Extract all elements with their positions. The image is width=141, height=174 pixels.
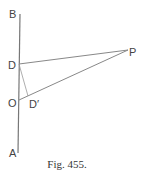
label-p: P (129, 46, 136, 58)
line-ab (18, 14, 20, 153)
diagram: B D O A P D′ Fig. 455. (0, 0, 141, 174)
arc-dd-prime (19, 64, 28, 96)
label-d: D (8, 59, 16, 71)
label-d-prime: D′ (29, 98, 39, 110)
label-o: O (8, 97, 17, 109)
label-a: A (9, 147, 17, 159)
figure-caption: Fig. 455. (47, 158, 87, 170)
label-b: B (9, 8, 16, 20)
